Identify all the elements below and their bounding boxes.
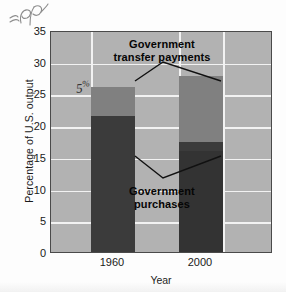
label-transfer-payments: Government transfer payments	[51, 38, 272, 64]
handwritten-percent-sign: %	[82, 78, 91, 89]
y-tick-15: 15	[24, 152, 46, 164]
gridline-h-5	[51, 222, 271, 224]
bar-1960-segment-transfer-payments	[91, 87, 135, 116]
bar-1960-segment-purchases	[91, 116, 135, 252]
bar-1960	[91, 87, 135, 252]
y-tick-25: 25	[24, 88, 46, 100]
x-tick-2000: 2000	[170, 256, 230, 268]
gridline-h-15	[51, 159, 271, 161]
y-tick-30: 30	[24, 57, 46, 69]
y-tick-35: 35	[24, 25, 46, 37]
handwritten-five-percent-note: 5%	[75, 78, 91, 97]
y-tick-5: 5	[24, 215, 46, 227]
y-tick-10: 10	[24, 184, 46, 196]
chart-figure: Percentage of U.S. output 35 30 25 20 15…	[0, 0, 286, 292]
label-transfer-line2: transfer payments	[51, 51, 272, 64]
y-axis-tick-labels: 35 30 25 20 15 10 5 0	[22, 0, 46, 292]
label-purchases-line1: Government	[51, 185, 272, 198]
y-tick-20: 20	[24, 120, 46, 132]
gridline-v-3	[223, 32, 225, 252]
x-tick-1960: 1960	[82, 256, 142, 268]
label-government-purchases: Government purchases	[51, 185, 272, 211]
label-purchases-line2: purchases	[51, 198, 272, 211]
label-transfer-line1: Government	[51, 38, 272, 51]
y-tick-0: 0	[24, 247, 46, 259]
bar-2000-segment-transfer-payments	[179, 76, 223, 141]
bar-2000	[179, 76, 223, 252]
gridline-h-20	[51, 127, 271, 129]
plot-area: Government transfer payments Government …	[50, 31, 272, 253]
page-scan-smudge	[0, 282, 286, 292]
